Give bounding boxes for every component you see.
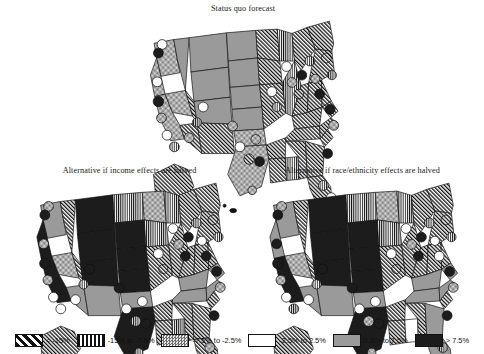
panel-title-status-quo: Status quo forecast [148, 4, 338, 13]
state-WY [191, 67, 230, 101]
legend-item-5: > 7.5% [415, 334, 469, 347]
legend-label-3: -2.5% to 2.5% [279, 336, 325, 345]
legend-label-2: -7.5% to -2.5% [192, 336, 241, 345]
legend-item-4: 2.5% to 7.5% [333, 334, 408, 347]
state-MN [142, 191, 166, 223]
state-IA [377, 220, 402, 247]
us-map-svg-race-halved [250, 177, 475, 315]
legend-label-1: -15% to -7.5% [108, 336, 155, 345]
state-NE [230, 85, 262, 110]
panel-race-halved: Alternative if race/ethnicity effects ar… [250, 166, 475, 316]
panel-status-quo: Status quo forecast [148, 4, 338, 154]
panel-title-income-halved: Alternative if income effects are halved [22, 166, 237, 175]
state-SD [348, 220, 379, 249]
state-NE [350, 247, 382, 272]
state-IA [258, 58, 283, 85]
legend-item-2: -7.5% to -2.5% [161, 334, 241, 347]
legend-swatch-neg7p5-neg2p5 [161, 334, 189, 347]
state-SD [115, 220, 146, 249]
state-NE [117, 247, 149, 272]
state-TN [286, 126, 320, 141]
state-TN [172, 288, 206, 303]
legend-item-3: -2.5% to 2.5% [248, 334, 325, 347]
state-AR [266, 138, 286, 159]
state-MT [309, 195, 348, 234]
state-TN [405, 288, 439, 303]
state-SD [228, 58, 259, 87]
state-MN [375, 191, 399, 223]
state-AR [153, 300, 173, 321]
map-income-halved [22, 177, 237, 316]
legend-item-0: < -15% [15, 334, 70, 347]
legend-swatch-neg15-neg7p5 [77, 334, 105, 347]
state-ND [113, 192, 144, 223]
three-panel-choropleth-figure: Status quo forecast [0, 0, 484, 354]
state-MT [189, 33, 228, 72]
map-status-quo [148, 15, 338, 154]
state-ND [346, 192, 377, 223]
panel-income-halved: Alternative if income effects are halved [22, 166, 237, 316]
legend-item-1: -15% to -7.5% [77, 334, 155, 347]
us-map-svg-income-halved [22, 177, 237, 315]
us-map-svg-status-quo [148, 15, 338, 153]
legend-swatch-gt-7p5 [415, 334, 443, 347]
state-IA [144, 220, 169, 247]
state-MT [76, 195, 115, 234]
legend-swatch-neg2p5-2p5 [248, 334, 276, 347]
state-WY [310, 229, 349, 263]
map-race-halved [250, 177, 475, 316]
panel-title-race-halved: Alternative if race/ethnicity effects ar… [250, 166, 475, 175]
legend-swatch-lt-neg15 [15, 334, 43, 347]
state-WY [77, 229, 116, 263]
legend-label-5: > 7.5% [446, 336, 469, 345]
state-AR [386, 300, 406, 321]
legend-label-4: 2.5% to 7.5% [364, 336, 408, 345]
state-ND [226, 30, 257, 61]
legend-label-0: < -15% [46, 336, 70, 345]
state-MN [256, 29, 280, 61]
legend-swatch-2p5-7p5 [333, 334, 361, 347]
legend: < -15% -15% to -7.5% -7.5% to -2.5% -2.5… [0, 332, 484, 348]
